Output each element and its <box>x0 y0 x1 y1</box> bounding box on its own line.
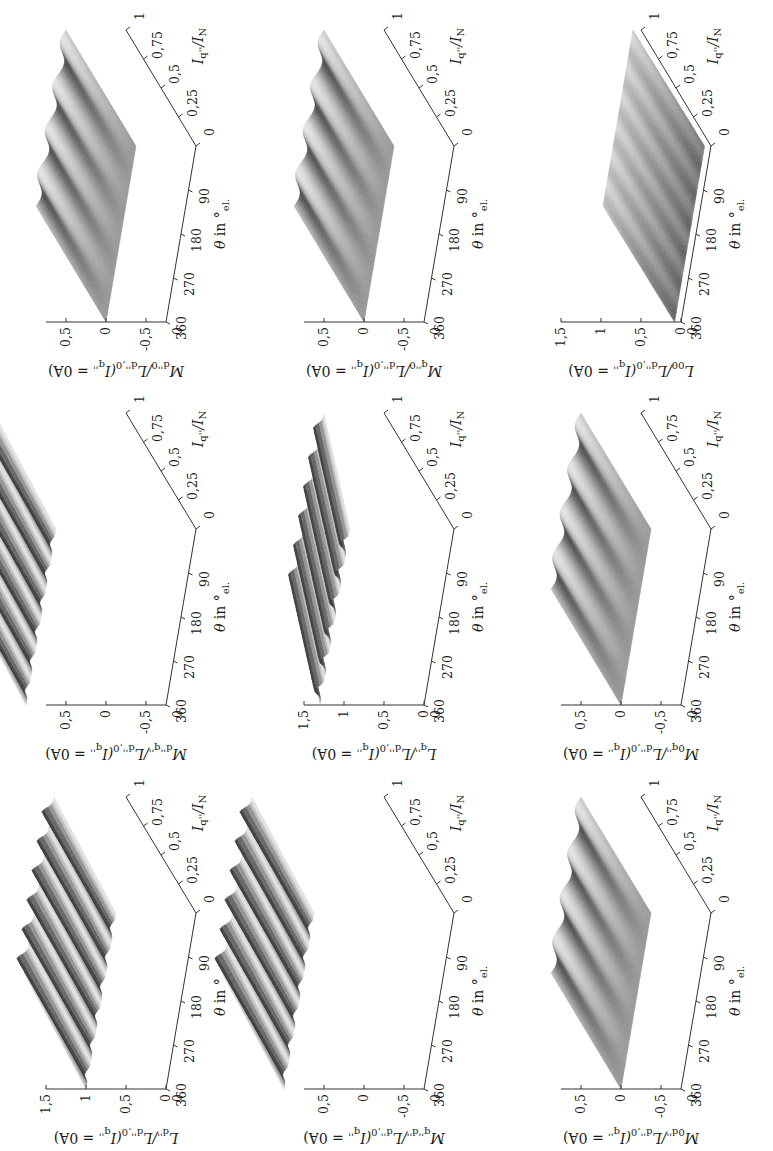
current-tick-label: 0,75 <box>150 798 165 826</box>
current-axis-label: Iq''/IN <box>448 795 466 833</box>
theta-tick-label: 270 <box>697 1039 712 1063</box>
z-tick-label: 0,5 <box>316 327 331 347</box>
surface-plot-Mqd: 9018027036000,250,50,751-0,500,50θ in °e… <box>258 768 515 1151</box>
current-tick <box>676 468 680 471</box>
z-tick-label: 0 <box>356 1094 371 1102</box>
current-tick <box>384 410 388 413</box>
theta-tick <box>439 1001 443 1003</box>
surface-plot-Md0: 9018027036000,250,50,751-0,500,50θ in °e… <box>0 1 257 384</box>
surface-plot-svg: 9018027036000,250,50,751-0,500,50θ in °e… <box>515 768 772 1151</box>
theta-tick <box>181 234 185 236</box>
theta-origin-label: 0 <box>170 710 185 718</box>
current-tick-label: 1 <box>390 12 405 20</box>
figure-grid: 9018027036000,250,50,75100,511,50θ in °e… <box>0 0 773 1151</box>
theta-tick-label: 90 <box>712 955 727 971</box>
current-tick <box>436 497 440 500</box>
current-tick <box>711 910 715 913</box>
surface-plot-svg: 9018027036000,250,50,75100,511,50θ in °e… <box>515 1 772 384</box>
theta-tick <box>681 322 685 324</box>
current-tick-label: 0,75 <box>665 414 680 442</box>
current-tick <box>711 526 715 529</box>
current-tick <box>384 27 388 30</box>
z-axis-label: M0q''/Ld'',0(Iq'' = 0A) <box>563 743 700 762</box>
current-tick-label: 1 <box>647 12 662 20</box>
surface-plot-M0d: 9018027036000,250,50,751-0,500,50θ in °e… <box>515 768 772 1151</box>
theta-tick-label: 270 <box>182 272 197 296</box>
current-tick <box>711 143 715 146</box>
current-tick-label: 0,75 <box>407 414 422 442</box>
z-tick-label: -0,5 <box>138 710 153 734</box>
theta-tick-label: 90 <box>712 188 727 204</box>
current-tick <box>161 852 165 855</box>
theta-tick-label: 90 <box>197 955 212 971</box>
theta-tick <box>181 617 185 619</box>
theta-origin-label: 0 <box>685 327 700 335</box>
theta-axis-label: θ in °el. <box>212 199 231 249</box>
z-axis-label: Md''0/Ld'',0(Iq'' = 0A) <box>48 360 185 379</box>
surface-mesh <box>551 413 651 705</box>
z-tick-label: 0,5 <box>58 327 73 347</box>
theta-tick-label: 180 <box>189 228 204 252</box>
theta-axis-label: θ in °el. <box>470 199 489 249</box>
surface-mesh <box>36 30 136 322</box>
theta-tick-label: 90 <box>454 571 469 587</box>
theta-origin-label: 0 <box>685 1094 700 1102</box>
z-tick-label: 0 <box>356 327 371 335</box>
current-tick-label: 1 <box>390 779 405 787</box>
current-tick-label: 0,5 <box>425 64 440 84</box>
current-tick <box>126 410 130 413</box>
theta-tick-label: 90 <box>454 188 469 204</box>
theta-tick <box>424 322 428 324</box>
current-tick <box>161 85 165 88</box>
current-tick <box>179 114 183 117</box>
z-tick-label: 1 <box>593 327 608 335</box>
theta-axis-label: θ in °el. <box>212 582 231 632</box>
current-tick <box>659 823 663 826</box>
current-tick-label: 0,5 <box>425 447 440 467</box>
surface-plot-svg: 9018027036000,250,50,751-0,500,50θ in °e… <box>258 768 515 1151</box>
current-tick <box>694 114 698 117</box>
current-tick <box>436 114 440 117</box>
z-tick-label: 0,5 <box>376 710 391 730</box>
theta-origin-label: 0 <box>170 1094 185 1102</box>
z-tick-label: 1 <box>336 710 351 718</box>
theta-tick-label: 90 <box>197 188 212 204</box>
current-tick <box>196 910 200 913</box>
theta-tick <box>689 278 693 280</box>
z-tick-label: 1 <box>78 1094 93 1102</box>
current-tick <box>419 852 423 855</box>
theta-origin-label: 0 <box>170 327 185 335</box>
theta-tick <box>439 617 443 619</box>
current-tick <box>384 794 388 797</box>
current-tick <box>694 497 698 500</box>
current-axis-label: Iq''/IN <box>705 411 723 449</box>
theta-tick-label: 180 <box>447 228 462 252</box>
current-tick <box>454 910 458 913</box>
z-tick-label: -0,5 <box>138 327 153 351</box>
current-tick <box>179 497 183 500</box>
theta-axis-label: θ in °el. <box>727 966 746 1016</box>
current-tick-label: 1 <box>132 12 147 20</box>
current-tick-label: 1 <box>132 395 147 403</box>
z-tick-label: 0,5 <box>573 710 588 730</box>
current-tick-label: 0,25 <box>700 472 715 500</box>
theta-tick <box>166 705 170 707</box>
current-tick-label: 1 <box>647 779 662 787</box>
current-tick-label: 0 <box>717 895 732 903</box>
surface-plot-svg: 9018027036000,250,50,751-0,500,50θ in °e… <box>0 384 257 767</box>
theta-tick-label: 180 <box>704 995 719 1019</box>
current-tick-label: 0,5 <box>682 64 697 84</box>
current-axis-label: Iq''/IN <box>705 795 723 833</box>
z-tick-label: -0,5 <box>396 327 411 351</box>
current-tick-label: 0 <box>460 128 475 136</box>
current-tick-label: 0 <box>460 895 475 903</box>
theta-tick <box>439 234 443 236</box>
theta-tick <box>166 1089 170 1091</box>
current-tick <box>659 56 663 59</box>
theta-axis-label: θ in °el. <box>727 199 746 249</box>
current-tick-label: 0,5 <box>682 447 697 467</box>
current-tick-label: 0 <box>717 128 732 136</box>
surface-plot-svg: 9018027036000,250,50,751-0,500,50θ in °e… <box>258 1 515 384</box>
theta-tick <box>704 957 708 959</box>
current-tick <box>454 526 458 529</box>
